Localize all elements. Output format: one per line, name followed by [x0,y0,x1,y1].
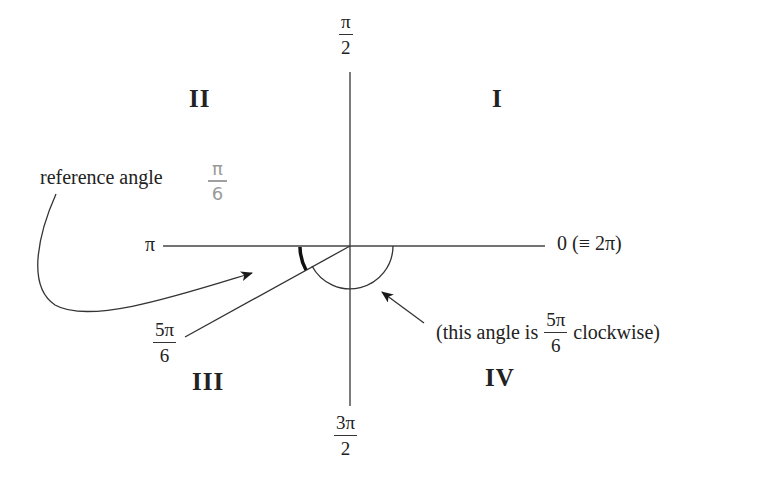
bottom-label-num: 3π [334,413,357,436]
reference-angle-label: reference angle [40,166,163,189]
reference-angle-arc [300,247,306,270]
quadrant-label-i: I [492,85,503,113]
handwritten-num: π [208,160,227,182]
bottom-label-den: 2 [341,436,351,458]
top-label-den: 2 [341,35,351,57]
quadrant-label-iii: III [192,368,224,396]
handwritten-pi-over-6: π 6 [208,160,227,203]
ray-label-num: 5π [153,320,176,343]
quadrant-label-iv: IV [485,364,515,392]
clockwise-fraction-num: 5π [544,310,567,333]
ray-label-den: 6 [160,343,170,365]
angle-ray-5pi-6 [185,246,350,337]
clockwise-pointer-arrow [382,292,424,323]
handwritten-den: 6 [212,182,223,203]
clockwise-fraction-den: 6 [551,333,561,355]
diagram-canvas [0,0,766,481]
clockwise-angle-arc [312,246,393,289]
label-3pi-over-2: 3π 2 [334,413,357,458]
clockwise-suffix: clockwise) [573,321,660,344]
label-pi: π [145,233,155,256]
label-pi-over-2: π 2 [339,12,353,57]
top-label-num: π [339,12,353,35]
ray-label-5pi-over-6: 5π 6 [153,320,176,365]
clockwise-prefix: (this angle is [436,321,538,344]
label-zero-2pi: 0 (≡ 2π) [557,232,622,255]
quadrant-label-ii: II [189,85,210,113]
clockwise-annotation: (this angle is 5π 6 clockwise) [436,310,660,355]
